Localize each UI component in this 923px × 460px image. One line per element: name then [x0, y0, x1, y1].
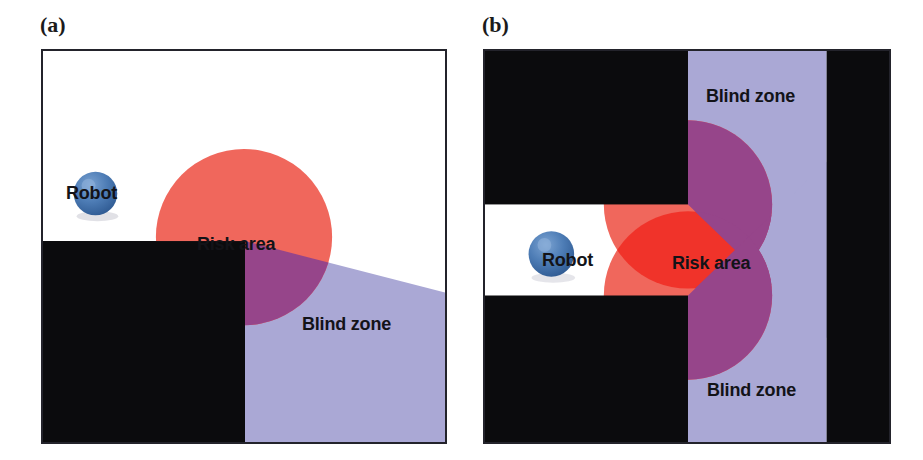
blind-zone-label-top-b: Blind zone	[706, 87, 795, 105]
panel-a: (a)	[0, 0, 461, 460]
panel-b-scene	[485, 51, 889, 442]
panel-a-label: (a)	[40, 14, 66, 36]
panel-b-label: (b)	[482, 14, 509, 36]
obstacle-block-right-b	[827, 51, 889, 442]
risk-area-label-a: Risk area	[197, 235, 275, 253]
robot-label-a: Robot	[66, 184, 117, 202]
blind-zone-label-a: Blind zone	[302, 315, 391, 333]
risk-area-label-b: Risk area	[672, 254, 750, 272]
obstacle-block-bottom-left-b	[485, 295, 688, 442]
panel-b: (b)	[461, 0, 922, 460]
robot-label-b: Robot	[542, 251, 593, 269]
obstacle-block-top-left-b	[485, 51, 688, 204]
panel-a-frame: Robot Risk area Blind zone	[41, 49, 447, 444]
blind-zone-label-bottom-b: Blind zone	[707, 381, 796, 399]
panel-b-frame: Blind zone Robot Risk area Blind zone	[483, 49, 891, 444]
figure-container: (a)	[0, 0, 923, 460]
